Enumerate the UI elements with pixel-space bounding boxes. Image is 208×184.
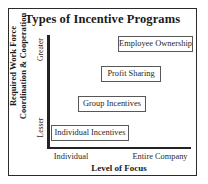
chart-title: Types of Incentive Programs xyxy=(8,12,197,26)
y-axis-title-line-1: Required Work Force xyxy=(8,4,18,128)
chart-figure: Types of Incentive Programs Required Wor… xyxy=(0,0,208,184)
x-axis-title: Level of Focus xyxy=(47,163,191,174)
y-axis-tick-lesser: Lesser xyxy=(35,106,46,150)
x-axis-tick-individual: Individual xyxy=(44,151,98,162)
x-axis-line xyxy=(47,147,191,150)
y-axis-tick-greater: Greater xyxy=(35,28,46,72)
y-axis-line xyxy=(47,35,50,149)
chart-item-employee-ownership: Employee Ownership xyxy=(118,36,193,52)
chart-item-group-incentives: Group Incentives xyxy=(78,96,146,112)
y-axis-title-line-2: Coordination & Cooperation xyxy=(18,4,28,128)
chart-item-individual-incentives: Individual Incentives xyxy=(51,125,129,141)
x-axis-tick-entire-company: Entire Company xyxy=(126,151,194,162)
y-axis-title: Required Work Force Coordination & Coope… xyxy=(8,4,32,128)
chart-item-profit-sharing: Profit Sharing xyxy=(101,66,161,82)
